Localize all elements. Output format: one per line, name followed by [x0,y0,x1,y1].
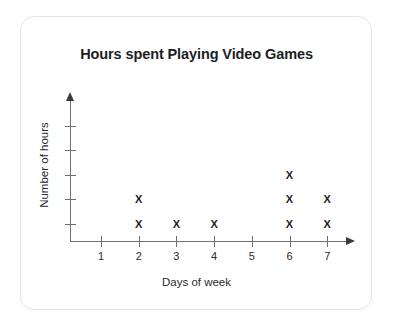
chart-screenshot: Hours spent Playing Video Games 1234567 … [0,0,393,329]
y-axis-title: Number of hours [38,95,50,235]
chart-title: Hours spent Playing Video Games [0,46,393,62]
x-axis-title: Days of week [0,276,393,288]
